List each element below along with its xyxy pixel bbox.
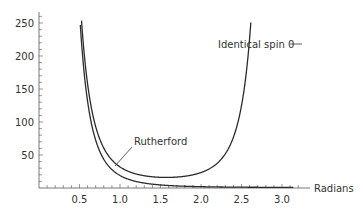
y-tick-label: 50 — [21, 150, 34, 161]
x-tick-label: 1.5 — [153, 194, 169, 205]
rutherford-label: Rutherford — [134, 136, 187, 147]
x-tick-label: 1.0 — [112, 194, 128, 205]
x-tick-label: 3.0 — [274, 194, 290, 205]
y-tick-label: 250 — [15, 18, 34, 29]
x-axis-label: Radians — [314, 183, 354, 194]
scattering-plot: 501001502002500.51.01.52.02.53.0 Identic… — [0, 0, 363, 211]
y-tick-label: 150 — [15, 84, 34, 95]
y-tick-label: 100 — [15, 117, 34, 128]
rutherford-leader — [115, 147, 132, 166]
x-tick-label: 0.5 — [72, 194, 88, 205]
chart-container: 501001502002500.51.01.52.02.53.0 Identic… — [0, 0, 363, 211]
y-tick-label: 200 — [15, 51, 34, 62]
x-tick-label: 2.0 — [193, 194, 209, 205]
annotations: Identical spin 0 Rutherford Radians — [115, 39, 354, 194]
identical-spin-label: Identical spin 0 — [218, 39, 294, 50]
x-tick-label: 2.5 — [234, 194, 250, 205]
